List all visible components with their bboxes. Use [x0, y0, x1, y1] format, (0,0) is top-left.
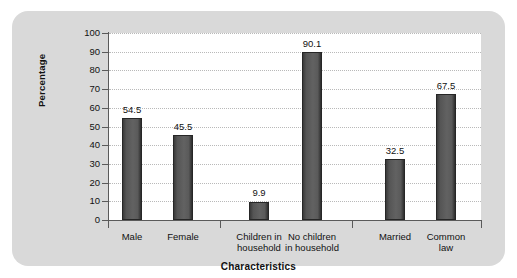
- x-category-line: Female: [147, 231, 219, 242]
- chart-figure: 54.545.59.990.132.567.5 0102030405060708…: [0, 0, 517, 278]
- x-tick-mark-3: [481, 221, 482, 228]
- y-tick-label-30: 30: [74, 159, 100, 168]
- y-tick-mark-50: [102, 127, 108, 128]
- x-category-line: in household: [276, 242, 348, 253]
- y-tick-label-80: 80: [74, 65, 100, 74]
- x-tick-mark-0: [108, 221, 109, 228]
- bar-5[interactable]: [436, 94, 456, 220]
- y-tick-label-100: 100: [74, 28, 100, 37]
- y-tick-mark-40: [102, 145, 108, 146]
- x-category-label-1: Female: [147, 231, 219, 242]
- bar-3[interactable]: [302, 52, 322, 220]
- bar-value-label-0: 54.5: [112, 105, 152, 115]
- y-tick-label-0: 0: [74, 215, 100, 224]
- bar-value-label-1: 45.5: [163, 122, 203, 132]
- y-axis-line: [108, 32, 109, 221]
- y-tick-mark-10: [102, 201, 108, 202]
- x-category-line: Common: [410, 231, 482, 242]
- x-axis-line: [108, 220, 482, 221]
- x-tick-mark-1: [220, 221, 221, 228]
- bar-2[interactable]: [249, 202, 269, 221]
- y-tick-mark-60: [102, 108, 108, 109]
- x-axis-title: Characteristics: [12, 261, 505, 272]
- gridline-10: [109, 201, 481, 202]
- y-tick-mark-100: [102, 33, 108, 34]
- y-tick-mark-90: [102, 52, 108, 53]
- gridline-30: [109, 164, 481, 165]
- gridline-40: [109, 145, 481, 146]
- y-tick-mark-70: [102, 89, 108, 90]
- y-tick-label-50: 50: [74, 122, 100, 131]
- y-tick-label-40: 40: [74, 140, 100, 149]
- chart-panel: 54.545.59.990.132.567.5 0102030405060708…: [12, 11, 505, 266]
- x-category-line: No children: [276, 231, 348, 242]
- gridline-60: [109, 108, 481, 109]
- y-tick-label-20: 20: [74, 178, 100, 187]
- y-tick-label-90: 90: [74, 47, 100, 56]
- bar-value-label-5: 67.5: [426, 81, 466, 91]
- x-category-line: law: [410, 242, 482, 253]
- y-tick-mark-20: [102, 183, 108, 184]
- bar-value-label-3: 90.1: [292, 39, 332, 49]
- y-tick-mark-80: [102, 70, 108, 71]
- bar-1[interactable]: [173, 135, 193, 220]
- plot-area: 54.545.59.990.132.567.5: [109, 33, 481, 220]
- gridline-80: [109, 70, 481, 71]
- bar-0[interactable]: [122, 118, 142, 220]
- gridline-100: [109, 33, 481, 34]
- y-tick-label-70: 70: [74, 84, 100, 93]
- bar-value-label-4: 32.5: [375, 146, 415, 156]
- y-tick-label-10: 10: [74, 196, 100, 205]
- bar-value-label-2: 9.9: [239, 188, 279, 198]
- gridline-20: [109, 183, 481, 184]
- y-axis-title: Percentage: [36, 54, 47, 107]
- y-tick-mark-30: [102, 164, 108, 165]
- x-category-label-3: No childrenin household: [276, 231, 348, 253]
- x-tick-mark-2: [352, 221, 353, 228]
- x-category-label-5: Commonlaw: [410, 231, 482, 253]
- bar-4[interactable]: [385, 159, 405, 220]
- y-tick-label-60: 60: [74, 103, 100, 112]
- gridline-90: [109, 52, 481, 53]
